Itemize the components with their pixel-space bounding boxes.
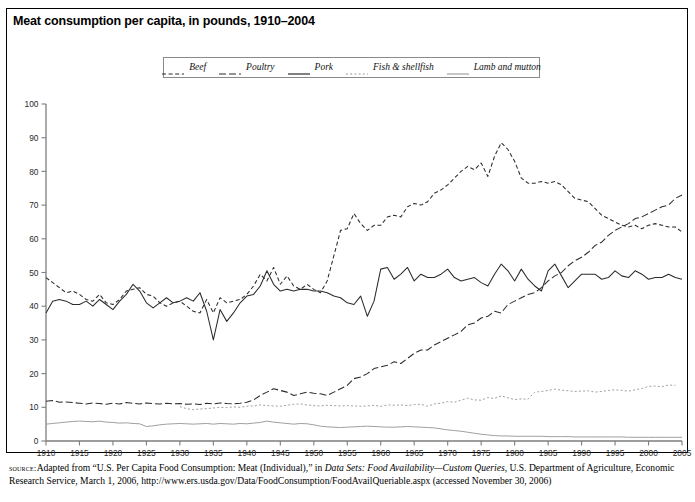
x-tick-label: 1965 (405, 448, 424, 458)
x-tick-label: 1980 (505, 448, 524, 458)
series-line-lamb-and-mutton (46, 421, 682, 437)
source-text-italic: Data Sets: Food Availability—Custom Quer… (325, 462, 505, 473)
x-tick-label: 1945 (271, 448, 290, 458)
x-tick-label: 1990 (572, 448, 591, 458)
x-tick-label: 1960 (371, 448, 390, 458)
source-label: source: (9, 463, 37, 473)
x-tick-label: 1930 (171, 448, 190, 458)
y-tick-label: 100 (25, 99, 39, 109)
source-note: source:Adapted from “U.S. Per Capita Foo… (9, 462, 687, 487)
chart-plot-area: 0102030405060708090100191019151920192519… (0, 0, 695, 502)
x-tick-label: 1940 (238, 448, 257, 458)
series-line-beef (46, 143, 682, 313)
source-text-part1: Adapted from “U.S. Per Capita Food Consu… (37, 462, 325, 473)
x-tick-label: 1925 (137, 448, 156, 458)
x-tick-label: 1915 (70, 448, 89, 458)
x-tick-label: 1920 (104, 448, 123, 458)
y-tick-label: 30 (29, 335, 39, 345)
y-tick-label: 50 (29, 268, 39, 278)
x-tick-label: 1985 (539, 448, 558, 458)
y-tick-label: 90 (29, 133, 39, 143)
series-line-pork (46, 264, 682, 340)
y-tick-label: 20 (29, 369, 39, 379)
x-tick-label: 1995 (606, 448, 625, 458)
x-tick-label: 1935 (204, 448, 223, 458)
y-tick-label: 10 (29, 402, 39, 412)
y-tick-label: 0 (34, 436, 39, 446)
figure-root: Meat consumption per capita, in pounds, … (0, 0, 695, 502)
series-line-fish-shellfish (180, 385, 675, 410)
x-tick-label: 1970 (438, 448, 457, 458)
x-tick-label: 1910 (37, 448, 56, 458)
x-tick-label: 1975 (472, 448, 491, 458)
x-tick-label: 1950 (304, 448, 323, 458)
y-tick-label: 80 (29, 167, 39, 177)
x-tick-label: 1955 (338, 448, 357, 458)
y-tick-label: 70 (29, 200, 39, 210)
x-tick-label: 2000 (639, 448, 658, 458)
x-tick-label: 2005 (673, 448, 692, 458)
y-tick-label: 40 (29, 301, 39, 311)
y-tick-label: 60 (29, 234, 39, 244)
